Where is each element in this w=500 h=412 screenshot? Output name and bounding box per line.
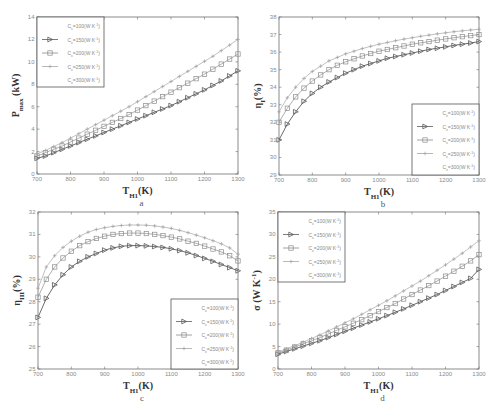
plus-marker-icon bbox=[186, 231, 190, 235]
y-tick-label: 30 bbox=[270, 154, 277, 160]
plus-marker-icon bbox=[85, 127, 89, 131]
y-tick-label: 32 bbox=[270, 119, 277, 125]
y-tick-label: 25 bbox=[29, 366, 36, 372]
plus-marker-icon bbox=[402, 37, 406, 41]
y-tick-label: 30 bbox=[269, 231, 276, 237]
plus-marker-icon bbox=[77, 132, 81, 136]
y-tick-label: 4 bbox=[31, 126, 35, 132]
y-tick-label: 15 bbox=[269, 299, 276, 305]
text-segment: =150(W K bbox=[448, 124, 471, 130]
plus-marker-icon bbox=[444, 31, 448, 35]
x-axis-label: TH1(K) bbox=[364, 186, 394, 201]
y-axis-label: ηIII(%) bbox=[11, 275, 26, 306]
legend: Cx=100(W K-1)Cx=150(W K-1)Cx=200(W K-1)C… bbox=[37, 17, 104, 87]
plus-marker-icon bbox=[145, 223, 149, 227]
plus-marker-icon bbox=[236, 38, 240, 42]
plus-marker-icon bbox=[394, 39, 398, 43]
x-tick-label: 1100 bbox=[165, 176, 179, 182]
y-tick-label: 28 bbox=[29, 299, 36, 305]
x-tick-label: 1000 bbox=[372, 177, 386, 183]
plus-marker-icon bbox=[186, 70, 190, 74]
text-segment: =150(W K bbox=[73, 37, 96, 43]
y-tick-label: 27 bbox=[29, 321, 36, 327]
x-tick-label: 1300 bbox=[231, 176, 245, 182]
plus-marker-icon bbox=[36, 286, 40, 290]
plus-marker-icon bbox=[78, 234, 82, 238]
panel-c: 7008009001000110012001300252627282930313… bbox=[11, 209, 245, 403]
plus-marker-icon bbox=[178, 75, 182, 79]
x-tick-label: 1000 bbox=[131, 176, 145, 182]
x-tick-label: 1300 bbox=[472, 177, 486, 183]
plus-marker-icon bbox=[402, 289, 406, 293]
text-segment: =300(W K bbox=[73, 77, 96, 83]
plus-marker-icon bbox=[103, 226, 107, 230]
y-axis-label: ηI(%) bbox=[252, 83, 267, 108]
plus-marker-icon bbox=[352, 49, 356, 53]
y-tick-label: 29 bbox=[270, 172, 277, 178]
panel-d: 700800900100011001200130005101520253035C… bbox=[250, 209, 486, 403]
y-tick-label: 38 bbox=[270, 14, 277, 20]
y-tick-label: 37 bbox=[270, 32, 277, 38]
text-segment: (kW) bbox=[10, 74, 22, 99]
plus-marker-icon bbox=[144, 95, 148, 99]
plus-marker-icon bbox=[120, 224, 124, 228]
text-segment: =200(W K bbox=[73, 50, 96, 56]
panel-label: a bbox=[140, 198, 144, 208]
text-segment: =100(W K bbox=[73, 23, 96, 29]
plus-marker-icon bbox=[360, 312, 364, 316]
plus-marker-icon bbox=[377, 42, 381, 46]
x-tick-label: 800 bbox=[307, 177, 318, 183]
x-axis-label: TH1(K) bbox=[123, 380, 153, 395]
series-2 bbox=[36, 231, 240, 300]
y-tick-label: 32 bbox=[29, 209, 36, 215]
y-tick-label: 33 bbox=[270, 102, 277, 108]
plus-marker-icon bbox=[343, 321, 347, 325]
x-tick-label: 1000 bbox=[131, 371, 145, 377]
y-tick-label: 26 bbox=[29, 344, 36, 350]
y-tick-label: 10 bbox=[28, 59, 35, 65]
figure: 700800900100011001200130002468101214Cx=1… bbox=[0, 0, 500, 412]
plus-marker-icon bbox=[368, 308, 372, 312]
plus-marker-icon bbox=[128, 223, 132, 227]
y-tick-label: 6 bbox=[31, 104, 35, 110]
plus-marker-icon bbox=[203, 236, 207, 240]
y-tick-label: 14 bbox=[28, 14, 35, 20]
plus-marker-icon bbox=[161, 85, 165, 89]
text-segment: (K) bbox=[138, 185, 152, 197]
x-tick-label: 800 bbox=[66, 371, 77, 377]
plus-marker-icon bbox=[102, 118, 106, 122]
plus-marker-icon bbox=[377, 304, 381, 308]
plus-marker-icon bbox=[52, 145, 56, 149]
plus-marker-icon bbox=[352, 317, 356, 321]
x-axis-label: TH1(K) bbox=[122, 185, 152, 200]
plus-marker-icon bbox=[119, 109, 123, 113]
plus-marker-icon bbox=[419, 35, 423, 39]
text-segment: =250(W K bbox=[448, 151, 471, 157]
plus-marker-icon bbox=[344, 52, 348, 56]
panel-label: c bbox=[140, 393, 144, 403]
x-tick-label: 1100 bbox=[406, 371, 420, 377]
y-tick-label: 31 bbox=[29, 231, 36, 237]
y-tick-label: 10 bbox=[269, 321, 276, 327]
plus-marker-icon bbox=[319, 64, 323, 68]
text-segment: =100(W K bbox=[207, 305, 230, 311]
plus-marker-icon bbox=[369, 45, 373, 49]
plus-marker-icon bbox=[69, 136, 73, 140]
x-tick-label: 1100 bbox=[406, 177, 420, 183]
text-segment: =250(W K bbox=[207, 346, 230, 352]
x-tick-label: 900 bbox=[100, 371, 111, 377]
plus-marker-icon bbox=[436, 32, 440, 36]
text-segment: =200(W K bbox=[314, 245, 337, 251]
plus-marker-icon bbox=[178, 229, 182, 233]
text-segment: (K) bbox=[379, 380, 393, 392]
plus-marker-icon bbox=[427, 33, 431, 37]
y-tick-label: 20 bbox=[269, 276, 276, 282]
x-tick-label: 900 bbox=[341, 177, 352, 183]
x-tick-label: 800 bbox=[65, 176, 76, 182]
text-segment: =250(W K bbox=[73, 64, 96, 70]
plus-marker-icon bbox=[419, 279, 423, 283]
plus-marker-icon bbox=[127, 105, 131, 109]
y-tick-label: 5 bbox=[272, 344, 276, 350]
plus-marker-icon bbox=[336, 56, 340, 60]
plus-marker-icon bbox=[277, 110, 281, 114]
